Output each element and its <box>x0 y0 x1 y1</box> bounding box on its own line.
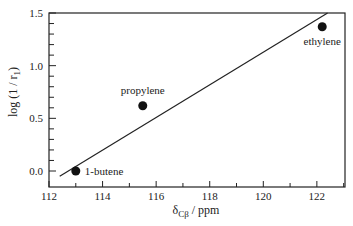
y-tick-label: 0.5 <box>29 112 43 124</box>
plot-border <box>49 13 345 187</box>
x-tick-label: 112 <box>41 190 57 202</box>
point-label: 1-butene <box>85 165 124 177</box>
x-axis-label: δCβ / ppm <box>173 203 221 219</box>
y-tick-label: 1.5 <box>29 7 43 19</box>
y-tick-label: 0.0 <box>29 165 43 177</box>
y-axis-label: log (1 / r1) <box>6 67 22 117</box>
x-tick-label: 120 <box>255 190 272 202</box>
data-points: 1-butenepropyleneethylene <box>71 22 341 177</box>
y-tick-label: 1.0 <box>29 60 43 72</box>
regression-line <box>60 13 328 176</box>
point-label: ethylene <box>304 35 341 47</box>
x-tick-label: 122 <box>309 190 326 202</box>
data-point <box>71 167 80 176</box>
axis-ticks <box>49 13 344 187</box>
x-tick-label: 116 <box>148 190 165 202</box>
x-tick-label: 114 <box>95 190 112 202</box>
plot-frame <box>49 13 345 187</box>
scatter-chart: 1121141161181201220.00.51.01.5 1-butenep… <box>0 0 353 226</box>
data-point <box>318 22 327 31</box>
point-label: propylene <box>121 84 165 96</box>
x-tick-label: 118 <box>202 190 219 202</box>
data-point <box>138 101 147 110</box>
